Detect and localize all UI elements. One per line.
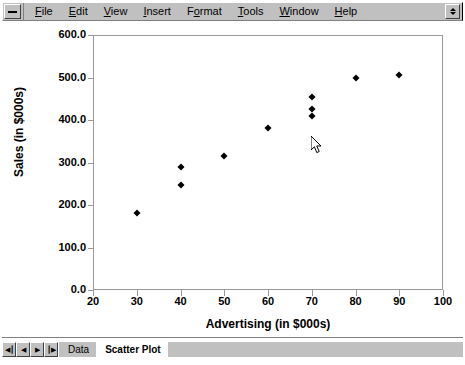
y-tick-label: 200.0: [32, 198, 86, 210]
menu-item-tools[interactable]: Tools: [230, 3, 272, 20]
x-tick-label: 90: [379, 295, 419, 307]
x-tick-label: 80: [336, 295, 376, 307]
x-axis-title: Advertising (in $000s): [93, 317, 443, 331]
scatter-chart[interactable]: 0.0100.0200.0300.0400.0500.0600.0 203040…: [2, 21, 463, 337]
spreadsheet-chart-window: File Edit View Insert Format Tools Windo…: [0, 0, 465, 365]
sheet-tab-data[interactable]: Data: [59, 341, 96, 357]
arrow-pointer-icon: [311, 136, 324, 155]
plot-area: [93, 35, 443, 290]
sheet-bottom-divider: [2, 337, 463, 338]
x-tick-label: 60: [248, 295, 288, 307]
spin-down-icon: [450, 12, 456, 15]
y-tick-label: 400.0: [32, 113, 86, 125]
menu-separator: [23, 3, 24, 20]
sheet-tab-bar: ◀┃ ◀ ▶ ┃▶ DataScatter Plot: [2, 340, 463, 357]
menu-item-list: File Edit View Insert Format Tools Windo…: [27, 3, 445, 20]
y-tick-label: 100.0: [32, 241, 86, 253]
y-tick-mark: [88, 205, 94, 206]
last-sheet-icon[interactable]: ┃▶: [44, 342, 58, 357]
y-tick-mark: [88, 120, 94, 121]
menu-item-window[interactable]: Window: [271, 3, 326, 20]
sheet-tabs: DataScatter Plot: [59, 341, 463, 357]
y-tick-mark: [88, 78, 94, 79]
system-menu-button[interactable]: [4, 4, 21, 19]
menu-item-edit[interactable]: Edit: [61, 3, 96, 20]
y-tick-label: 0.0: [32, 283, 86, 295]
menu-bar: File Edit View Insert Format Tools Windo…: [2, 2, 463, 21]
chart-sheet: 0.0100.0200.0300.0400.0500.0600.0 203040…: [2, 21, 463, 337]
window-spinner-button[interactable]: [445, 4, 460, 19]
sheet-nav-buttons: ◀┃ ◀ ▶ ┃▶: [2, 342, 58, 357]
menu-item-help[interactable]: Help: [327, 3, 366, 20]
spin-up-icon: [450, 8, 456, 11]
menu-item-format[interactable]: Format: [179, 3, 230, 20]
x-tick-label: 30: [117, 295, 157, 307]
menu-item-insert[interactable]: Insert: [135, 3, 179, 20]
x-tick-label: 40: [161, 295, 201, 307]
y-tick-mark: [88, 163, 94, 164]
y-tick-label: 300.0: [32, 156, 86, 168]
menu-item-view[interactable]: View: [96, 3, 136, 20]
y-tick-mark: [88, 35, 94, 36]
x-tick-label: 20: [73, 295, 113, 307]
x-tick-label: 70: [292, 295, 332, 307]
y-tick-label: 500.0: [32, 71, 86, 83]
x-tick-label: 50: [204, 295, 244, 307]
y-tick-mark: [88, 248, 94, 249]
next-sheet-icon[interactable]: ▶: [30, 342, 44, 357]
tab-bar-filler: [168, 341, 463, 357]
previous-sheet-icon[interactable]: ◀: [16, 342, 30, 357]
menu-item-file[interactable]: File: [27, 3, 61, 20]
minimize-box-icon: [8, 11, 17, 13]
y-tick-label: 600.0: [32, 28, 86, 40]
first-sheet-icon[interactable]: ◀┃: [2, 342, 16, 357]
y-axis-title: Sales (in $000s): [12, 52, 26, 212]
sheet-tab-scatter-plot[interactable]: Scatter Plot: [96, 341, 168, 357]
x-tick-label: 100: [423, 295, 463, 307]
